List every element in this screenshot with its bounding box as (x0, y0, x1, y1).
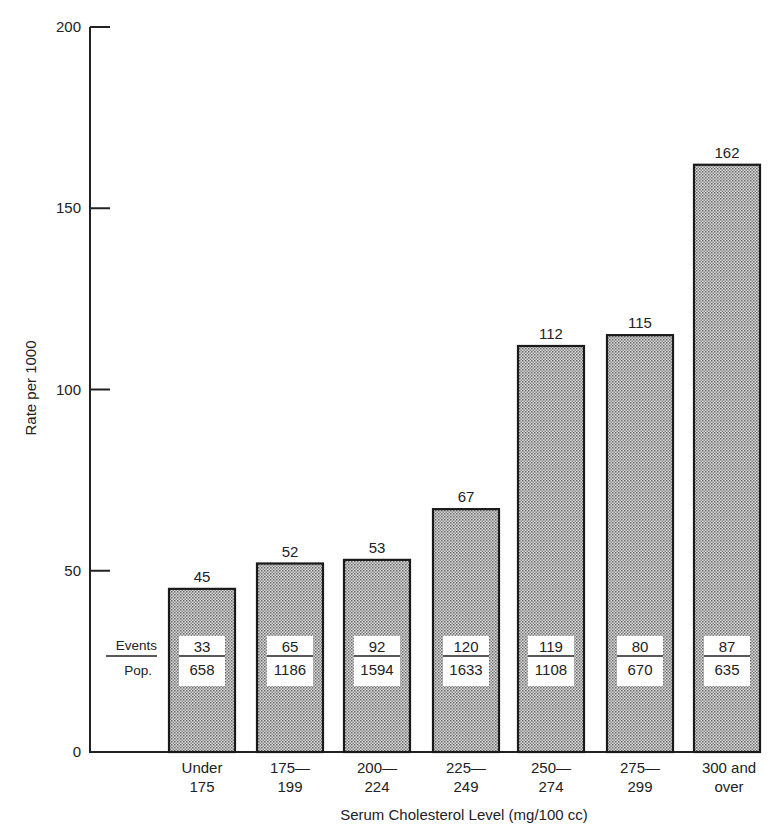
category-label: 224 (364, 778, 389, 795)
bar-value-label: 45 (194, 568, 211, 585)
y-tick-label: 0 (73, 743, 81, 760)
bar-value-label: 162 (714, 144, 739, 161)
y-tick-label: 150 (56, 199, 81, 216)
category-label: over (714, 778, 743, 795)
bar (433, 509, 499, 752)
bar-value-label: 67 (458, 488, 475, 505)
events-count: 80 (632, 638, 649, 655)
bar-value-label: 115 (628, 314, 652, 331)
population-count: 1633 (449, 661, 482, 678)
population-count: 1186 (274, 661, 306, 678)
population-count: 1108 (535, 661, 567, 678)
category-label: 249 (453, 778, 478, 795)
events-count: 119 (539, 638, 563, 655)
y-axis-label: Rate per 1000 (22, 340, 39, 435)
category-label: 175— (270, 759, 310, 776)
events-count: 33 (194, 638, 211, 655)
population-count: 658 (189, 661, 214, 678)
bar-value-label: 112 (539, 325, 563, 342)
y-tick-label: 200 (56, 18, 81, 35)
bar (518, 346, 584, 752)
bar-value-label: 53 (369, 539, 386, 556)
bar (607, 335, 673, 752)
category-label: 250— (531, 759, 571, 776)
events-count: 92 (369, 638, 386, 655)
events-count: 65 (282, 638, 299, 655)
category-label: 299 (627, 778, 652, 795)
category-label: 300 and (702, 759, 756, 776)
population-count: 1594 (360, 661, 393, 678)
category-label: Under (182, 759, 223, 776)
bar-chart: 050100150200 EventsPop.4533658Under17552… (0, 0, 780, 836)
category-label: 175 (189, 778, 214, 795)
events-count: 120 (453, 638, 478, 655)
fraction-legend-denominator: Pop. (124, 663, 152, 678)
population-count: 670 (627, 661, 652, 678)
y-tick-label: 100 (56, 381, 81, 398)
events-count: 87 (719, 638, 736, 655)
y-tick-label: 50 (64, 562, 81, 579)
category-label: 199 (277, 778, 302, 795)
category-label: 274 (538, 778, 563, 795)
category-label: 225— (446, 759, 486, 776)
category-label: 200— (357, 759, 397, 776)
population-count: 635 (714, 661, 739, 678)
category-label: 275— (620, 759, 660, 776)
bar-value-label: 52 (282, 543, 299, 560)
fraction-legend-numerator: Events (116, 638, 158, 653)
x-axis-label: Serum Cholesterol Level (mg/100 cc) (340, 806, 588, 823)
